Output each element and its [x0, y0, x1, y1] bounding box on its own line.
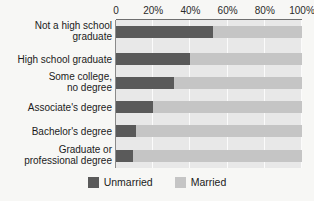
bar-segment-married: [133, 150, 302, 162]
bar-segment-married: [136, 125, 302, 137]
legend-label: Unmarried: [104, 176, 153, 188]
bar-segment-married: [153, 101, 302, 113]
gridline: [264, 20, 265, 168]
legend-swatch-icon: [175, 177, 186, 188]
legend-item[interactable]: Unmarried: [88, 176, 153, 188]
bar-row: [116, 26, 302, 38]
bar-segment-unmarried: [116, 150, 133, 162]
x-tick-label: 60%: [218, 5, 238, 17]
bar-row: [116, 53, 302, 65]
bar-segment-unmarried: [116, 53, 190, 65]
category-label: Not a high school graduate: [0, 20, 112, 42]
plot-area: [116, 20, 302, 168]
bar-row: [116, 150, 302, 162]
stacked-bar-chart: 020%40%60%80%100% Not a high school grad…: [0, 0, 314, 201]
x-tick-label: 100%: [289, 5, 314, 17]
bar-segment-married: [174, 77, 302, 89]
bar-segment-married: [213, 26, 302, 38]
x-tick-label: 40%: [180, 5, 200, 17]
category-label: Graduate or professional degree: [0, 144, 112, 166]
bar-segment-unmarried: [116, 125, 136, 137]
gridline: [301, 20, 302, 168]
bar-segment-unmarried: [116, 77, 174, 89]
x-tick-label: 0: [113, 5, 119, 17]
gridline: [227, 20, 228, 168]
bar-segment-unmarried: [116, 101, 153, 113]
gridline: [189, 20, 190, 168]
category-label: Associate's degree: [0, 102, 112, 113]
legend-label: Married: [191, 176, 227, 188]
legend-swatch-icon: [88, 177, 99, 188]
category-label: High school graduate: [0, 54, 112, 65]
bar-segment-married: [190, 53, 302, 65]
chart-legend: UnmarriedMarried: [0, 176, 314, 188]
x-tick-label: 80%: [255, 5, 275, 17]
bar-row: [116, 101, 302, 113]
legend-item[interactable]: Married: [175, 176, 227, 188]
category-label: Bachelor's degree: [0, 126, 112, 137]
x-axis-tick-labels: 020%40%60%80%100%: [116, 5, 302, 18]
bar-row: [116, 77, 302, 89]
bar-segment-unmarried: [116, 26, 213, 38]
gridline: [152, 20, 153, 168]
category-label: Some college, no degree: [0, 71, 112, 93]
x-tick-label: 20%: [143, 5, 163, 17]
bar-row: [116, 125, 302, 137]
